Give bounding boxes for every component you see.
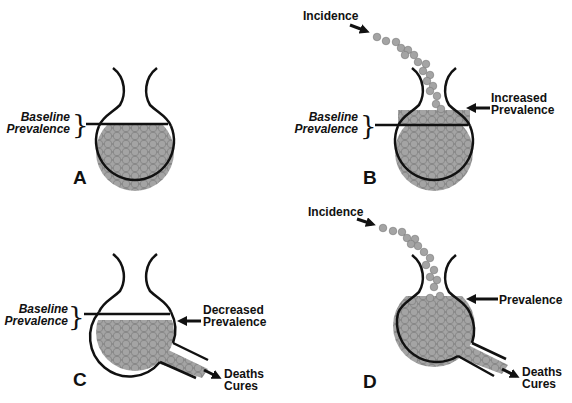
- baseline-label-2: Prevalence: [7, 122, 71, 136]
- outflow-label-2: Cures: [224, 379, 258, 393]
- incidence-arrow-icon: [350, 25, 366, 31]
- incidence-stream: [373, 33, 445, 113]
- prevalence-label: Prevalence: [499, 293, 563, 307]
- panel-letter: D: [363, 371, 377, 392]
- incidence-stream: [379, 224, 444, 305]
- panel-letter: A: [73, 167, 87, 188]
- brace-icon: }: [68, 302, 85, 332]
- panel-c: C Baseline Prevalence } Decreased Preval…: [5, 254, 267, 395]
- incidence-arrow-icon: [357, 219, 372, 224]
- baseline-label-2: Prevalence: [5, 314, 69, 328]
- brace-icon: }: [360, 111, 377, 141]
- panel-a: A Baseline Prevalence }: [7, 68, 180, 198]
- panel-letter: C: [73, 369, 87, 390]
- particles-fill: [90, 123, 180, 198]
- outflow-arrow-icon: [502, 369, 516, 376]
- incidence-label: Incidence: [308, 205, 364, 219]
- incidence-label: Incidence: [303, 9, 359, 23]
- outflow-arrow-icon: [204, 370, 218, 377]
- prevalence-label-2: Prevalence: [203, 315, 267, 329]
- outflow-label-2: Cures: [522, 377, 556, 391]
- prevalence-incidence-diagram: A Baseline Prevalence } B Baseline Preva…: [0, 0, 572, 403]
- panel-d: D Incidence Prevalence Deaths Cures: [308, 205, 563, 392]
- panel-b: B Baseline Prevalence } Incidence Increa…: [295, 9, 555, 198]
- prevalence-label-2: Prevalence: [491, 103, 555, 117]
- panel-letter: B: [363, 167, 377, 188]
- brace-icon: }: [72, 110, 89, 140]
- baseline-label-2: Prevalence: [295, 122, 359, 136]
